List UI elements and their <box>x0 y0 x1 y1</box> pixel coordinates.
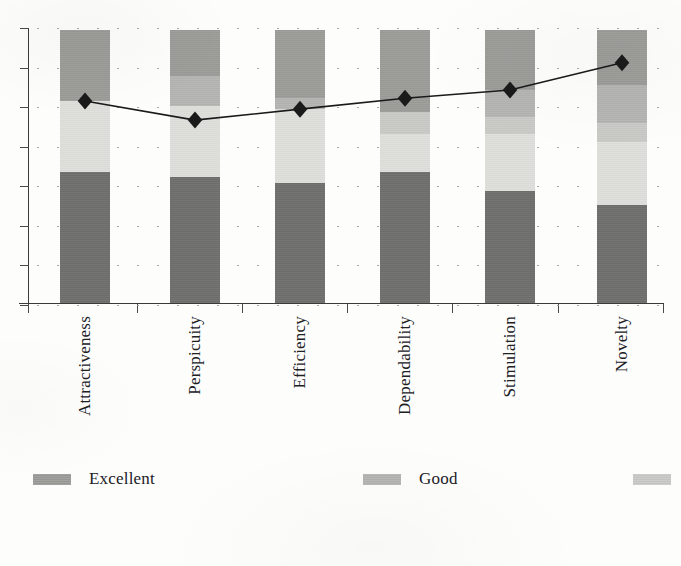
bar-segment <box>597 123 647 142</box>
bar-segment <box>170 177 220 303</box>
legend-label: Excellent <box>89 469 155 489</box>
gridline <box>28 305 664 306</box>
gridline <box>28 28 664 29</box>
x-axis-label: Dependability <box>395 316 415 415</box>
stacked-bar <box>380 30 430 303</box>
x-axis-label: Attractiveness <box>75 316 95 416</box>
legend-color-swatch <box>363 474 401 485</box>
stacked-bar <box>597 30 647 303</box>
bar-segment <box>485 30 535 90</box>
legend-color-swatch <box>633 474 671 485</box>
bar-segment <box>60 172 110 303</box>
bar-segment <box>380 112 430 134</box>
bar-segment <box>597 142 647 205</box>
x-axis-label: Perspicuity <box>185 316 205 395</box>
bar-segment <box>170 106 220 177</box>
legend-entry[interactable]: Above average <box>633 466 681 492</box>
legend-color-swatch <box>33 474 71 485</box>
x-axis-label: Stimulation <box>500 316 520 398</box>
x-axis-label: Novelty <box>612 316 632 372</box>
bar-segment <box>485 191 535 303</box>
x-axis-label-slot: Novelty <box>597 316 647 444</box>
bar-segment <box>485 117 535 133</box>
plot-area <box>28 30 664 303</box>
x-axis-label-slot: Perspicuity <box>170 316 220 444</box>
chart-figure: AttractivenessPerspicuityEfficiencyDepen… <box>0 0 681 566</box>
legend-label: Good <box>419 469 458 489</box>
chart-legend: ExcellentGoodAbove averageBelow averageB… <box>33 466 633 492</box>
stacked-bar <box>170 30 220 303</box>
legend-entry[interactable]: Good <box>363 466 633 492</box>
legend-entry[interactable]: Excellent <box>33 466 363 492</box>
bar-segment <box>485 134 535 191</box>
bar-segment <box>60 30 110 101</box>
bar-segment <box>380 172 430 303</box>
bar-segment <box>597 205 647 303</box>
stacked-bar <box>275 30 325 303</box>
bar-segment <box>485 90 535 117</box>
stacked-bar <box>60 30 110 303</box>
bar-segment <box>597 85 647 123</box>
bar-segment <box>170 30 220 76</box>
x-axis-label-slot: Attractiveness <box>60 316 110 444</box>
x-axis-label: Efficiency <box>290 316 310 388</box>
bar-segment <box>597 30 647 85</box>
x-axis-label-slot: Stimulation <box>485 316 535 444</box>
bar-segment <box>170 76 220 106</box>
bar-segment <box>275 109 325 183</box>
x-axis-label-slot: Dependability <box>380 316 430 444</box>
bar-segment <box>380 30 430 112</box>
bar-segment <box>275 30 325 98</box>
x-axis-line <box>19 303 664 304</box>
x-axis-label-slot: Efficiency <box>275 316 325 444</box>
bar-segment <box>380 134 430 172</box>
stacked-bar <box>485 30 535 303</box>
bar-segment <box>275 183 325 303</box>
bar-segment <box>275 98 325 109</box>
bar-segment <box>60 101 110 172</box>
